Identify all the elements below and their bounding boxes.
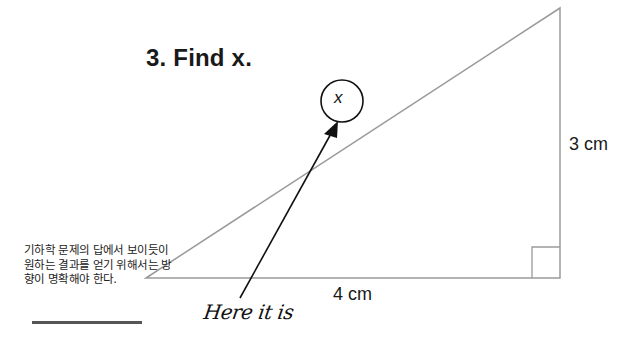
horizontal-side-label: 4 cm	[333, 284, 372, 305]
arrow-label: Here it is	[202, 300, 295, 324]
caption-divider	[32, 321, 142, 324]
vertical-side-label: 3 cm	[569, 134, 608, 155]
page-title: 3. Find x.	[146, 44, 252, 72]
triangle-diagram	[0, 0, 640, 340]
geometry-figure: 3. Find x. x 3 cm 4 cm Here it is 기하학 문제…	[0, 0, 640, 340]
arrowhead-icon	[324, 121, 338, 138]
pointer-arrow-shaft	[240, 130, 333, 298]
variable-x: x	[334, 88, 343, 108]
right-angle-marker	[532, 247, 560, 278]
caption-text: 기하학 문제의 답에서 보이듯이 원하는 결과를 얻기 위해서는 방향이 명확해…	[24, 243, 174, 287]
